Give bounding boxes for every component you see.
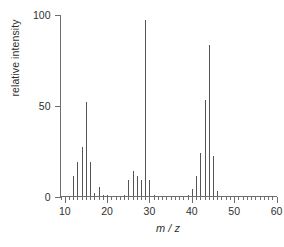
- x-tick-label: 10: [59, 205, 71, 217]
- y-tick-label: 100: [33, 9, 51, 21]
- x-tick-label: 60: [271, 205, 283, 217]
- y-tick-labels: 050100: [33, 9, 51, 203]
- x-axis: [61, 197, 278, 203]
- x-tick-label: 30: [144, 205, 156, 217]
- x-tick-label: 40: [186, 205, 198, 217]
- y-tick-label: 50: [39, 100, 51, 112]
- plot-canvas: 102030405060 050100: [0, 0, 284, 247]
- x-tick-labels: 102030405060: [59, 205, 283, 217]
- peaks-group: [74, 20, 218, 197]
- y-axis: [55, 15, 61, 198]
- y-tick-label: 0: [45, 191, 51, 203]
- x-tick-label: 20: [101, 205, 113, 217]
- mass-spectrum-figure: relative intensity m / z 102030405060 05…: [0, 0, 284, 247]
- x-tick-label: 50: [228, 205, 240, 217]
